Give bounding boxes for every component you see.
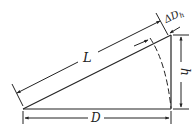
label-L: L bbox=[82, 50, 92, 65]
label-delta-D: ΔDh bbox=[161, 6, 185, 27]
diagram-canvas: L ΔDh h D bbox=[0, 0, 194, 138]
hypotenuse-line bbox=[23, 35, 171, 109]
L-dim-line-left bbox=[17, 62, 78, 93]
label-D: D bbox=[90, 111, 101, 125]
deltaD-arrow bbox=[170, 27, 180, 33]
L-dim-line-right bbox=[98, 21, 160, 52]
L-extension-left bbox=[12, 84, 23, 106]
triangle-diagram: L ΔDh h D bbox=[0, 0, 194, 138]
arc-pointer-arrow bbox=[134, 40, 148, 46]
arc-dashed bbox=[150, 38, 171, 108]
label-h: h bbox=[178, 68, 192, 76]
triangle bbox=[23, 35, 171, 109]
